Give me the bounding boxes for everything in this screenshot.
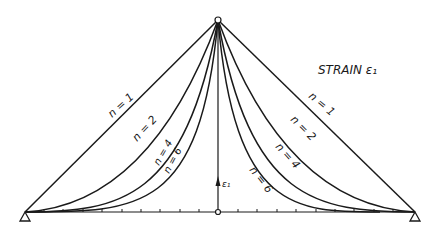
axis-label: ε₁ (222, 179, 231, 189)
label-right-n6: n = 6 (247, 164, 276, 196)
axis-arrow-icon (216, 176, 221, 186)
strain-distribution-diagram: STRAIN ε₁ ε₁ n = 1 n = 2 n = 4 n = 6 n =… (0, 0, 441, 243)
label-right-n1: n = 1 (306, 89, 337, 118)
peak-node (215, 17, 221, 23)
curve-right-n1 (218, 20, 415, 212)
curve-left-n1 (25, 20, 218, 212)
right-support-icon (410, 212, 420, 221)
left-support-icon (20, 212, 30, 221)
label-right-n4: n = 4 (273, 140, 303, 171)
diagram-title: STRAIN ε₁ (318, 63, 377, 77)
label-right-n2: n = 2 (288, 113, 319, 144)
center-node (216, 210, 221, 215)
